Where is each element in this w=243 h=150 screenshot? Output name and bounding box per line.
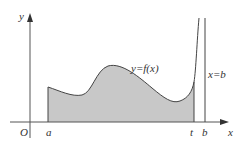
diagram-canvas: y x O a t b y=f(x) x=b — [0, 0, 243, 150]
x-axis-arrow-icon — [220, 119, 229, 125]
y-axis-label: y — [18, 10, 24, 22]
integral-diagram: y x O a t b y=f(x) x=b — [0, 0, 243, 150]
curve-label: y=f(x) — [130, 62, 159, 75]
b-label: b — [202, 126, 208, 138]
origin-label: O — [20, 126, 28, 138]
a-label: a — [46, 126, 52, 138]
y-axis-arrow-icon — [27, 13, 33, 22]
shaded-area — [48, 65, 194, 122]
x-axis-label: x — [227, 126, 233, 138]
vertical-line-label: x=b — [207, 68, 226, 80]
t-label: t — [190, 126, 194, 138]
